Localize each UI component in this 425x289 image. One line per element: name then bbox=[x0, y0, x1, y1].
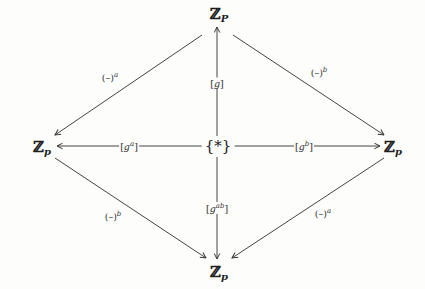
label-base: (–) bbox=[105, 211, 117, 222]
label-base: (–) bbox=[102, 72, 114, 83]
label-center-to-bottom: [gab] bbox=[205, 202, 229, 214]
label-base: (–) bbox=[311, 67, 323, 78]
node-right-base: ℤ bbox=[384, 138, 395, 156]
node-top-base: ℤ bbox=[210, 5, 221, 23]
label-sup: a bbox=[327, 207, 331, 215]
label-center-to-right: [gb] bbox=[294, 140, 314, 152]
label-top-to-right: (–)b bbox=[310, 66, 329, 78]
node-bottom: ℤp bbox=[210, 263, 228, 282]
label-sup: a bbox=[114, 71, 118, 79]
label-left-to-bottom: (–)b bbox=[104, 210, 123, 222]
arrow-top-to-right bbox=[233, 35, 384, 135]
node-top: ℤP bbox=[210, 5, 228, 24]
label-center-to-left: [ga] bbox=[119, 140, 139, 152]
arrow-right-to-bottom bbox=[232, 158, 384, 258]
node-left-subscript: p bbox=[44, 146, 51, 157]
node-bottom-subscript: p bbox=[221, 271, 228, 282]
node-left: ℤp bbox=[33, 138, 51, 157]
label-sup: b bbox=[323, 66, 327, 74]
node-center: {*} bbox=[202, 137, 235, 155]
bracket-close: ] bbox=[309, 141, 313, 152]
node-top-subscript: P bbox=[221, 13, 229, 24]
bracket-close: ] bbox=[220, 78, 224, 89]
node-right-subscript: p bbox=[395, 146, 402, 157]
bracket-close: ] bbox=[224, 203, 228, 214]
label-top-to-left: (–)a bbox=[101, 71, 119, 83]
label-center-to-top: [g] bbox=[209, 78, 225, 89]
node-left-base: ℤ bbox=[33, 138, 44, 156]
arrow-left-to-bottom bbox=[55, 158, 206, 258]
arrow-top-to-left bbox=[55, 35, 202, 135]
label-base: (–) bbox=[315, 208, 327, 219]
node-bottom-base: ℤ bbox=[210, 263, 221, 281]
label-sup: b bbox=[117, 210, 121, 218]
node-right: ℤp bbox=[384, 138, 402, 157]
bracket-close: ] bbox=[134, 141, 138, 152]
label-right-to-bottom: (–)a bbox=[314, 207, 332, 219]
